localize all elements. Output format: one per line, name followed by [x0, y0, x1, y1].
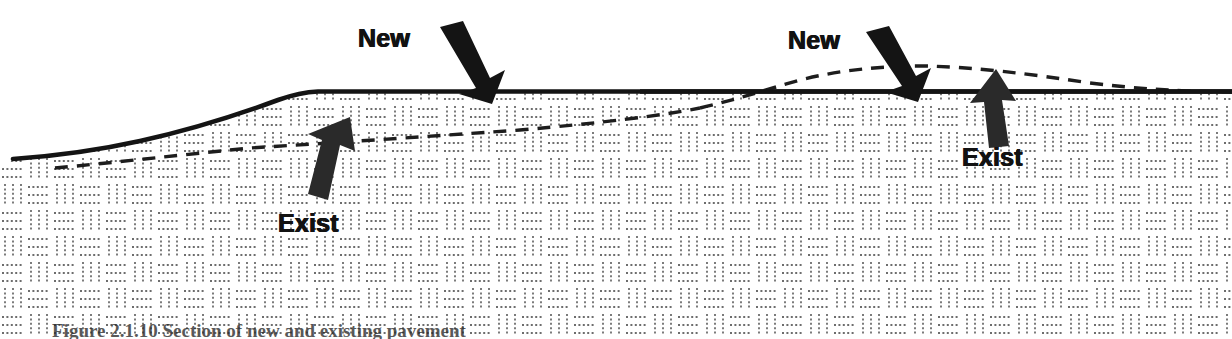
label-exist-secondary: Exist	[962, 145, 1023, 170]
pavement-hatch-fill	[0, 60, 1232, 339]
section-drawing	[0, 0, 1232, 339]
figure-caption: Figure 2.1.10 Section of new and existin…	[52, 320, 466, 339]
label-new-secondary: New	[788, 28, 840, 53]
label-exist-primary: Exist	[278, 211, 339, 236]
pavement-section-figure: New New Exist Exist Figure 2.1.10 Sectio…	[0, 0, 1232, 339]
label-new-primary: New	[358, 26, 410, 51]
